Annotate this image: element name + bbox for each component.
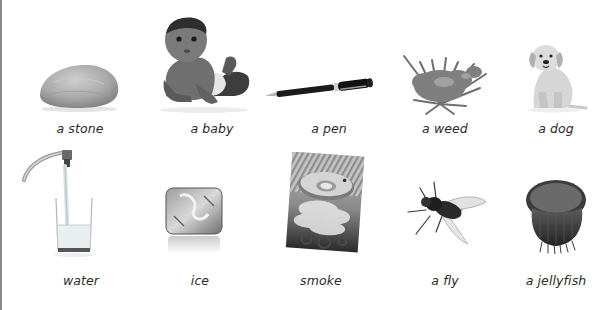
stone-icon xyxy=(36,60,122,112)
caption-ice: ice xyxy=(140,273,260,288)
caption-fly: a fly xyxy=(385,273,505,288)
caption-jellyfish: a jellyfish xyxy=(496,273,612,288)
caption-pen: a pen xyxy=(269,121,389,136)
water-glass-icon xyxy=(22,150,102,260)
caption-stone: a stone xyxy=(20,121,140,136)
fly-icon xyxy=(406,180,490,248)
caption-smoke: smoke xyxy=(261,273,381,288)
left-border-rule xyxy=(0,0,2,310)
caption-baby: a baby xyxy=(152,121,272,136)
ice-cube-icon xyxy=(164,186,226,256)
pen-icon xyxy=(262,74,376,100)
caption-dog: a dog xyxy=(496,121,612,136)
jellyfish-icon xyxy=(524,178,590,254)
caption-water: water xyxy=(21,273,141,288)
baby-icon xyxy=(152,14,254,114)
caption-weed: a weed xyxy=(385,121,505,136)
dog-icon xyxy=(524,42,590,114)
smoke-detector-icon xyxy=(283,152,367,254)
weed-icon xyxy=(396,52,490,116)
